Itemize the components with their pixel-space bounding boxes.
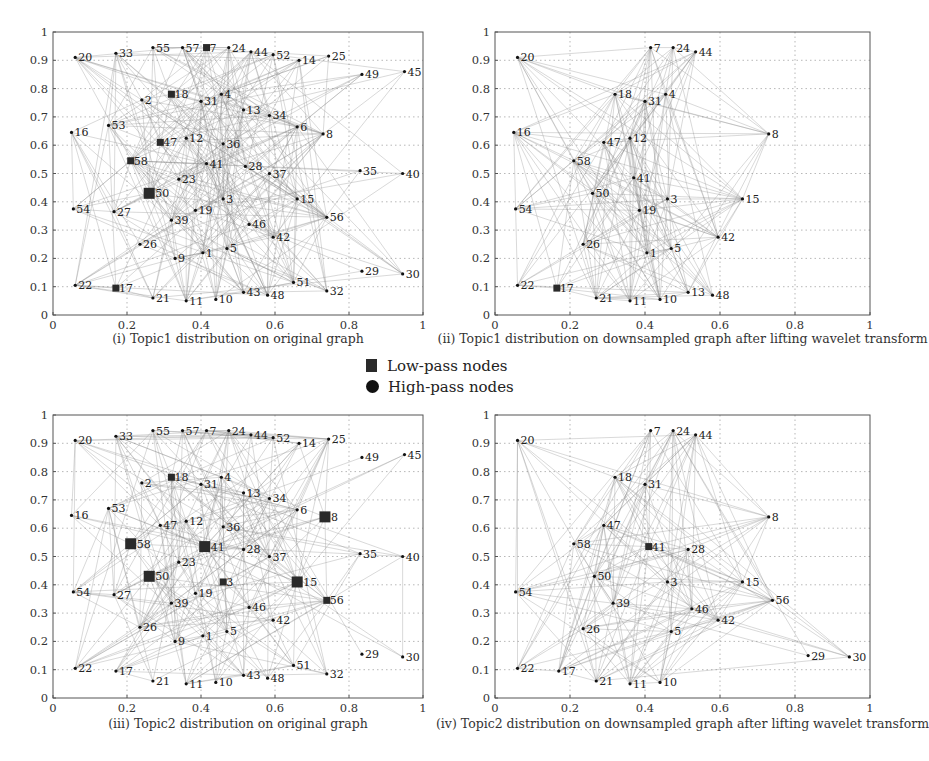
high-pass-node-marker	[242, 674, 245, 677]
high-pass-node-marker	[174, 257, 177, 260]
high-pass-node-marker	[690, 607, 693, 610]
svg-text:0.1: 0.1	[472, 280, 490, 294]
node-label: 17	[119, 665, 133, 678]
high-pass-node-marker	[557, 670, 560, 673]
svg-text:0.6: 0.6	[266, 318, 284, 332]
high-pass-node-marker	[222, 525, 225, 528]
high-pass-node-marker	[741, 197, 744, 200]
node-label: 3	[671, 193, 678, 206]
node-label: 54	[519, 586, 533, 599]
node-label: 18	[618, 88, 632, 101]
high-pass-node-marker	[771, 599, 774, 602]
node-label: 12	[633, 132, 647, 145]
node-label: 47	[607, 519, 621, 532]
node-label: 46	[252, 218, 266, 231]
high-pass-node-marker	[591, 192, 594, 195]
svg-text:0.4: 0.4	[636, 318, 654, 332]
node-label: 32	[330, 285, 344, 298]
svg-text:0.2: 0.2	[30, 251, 48, 265]
node-label: 57	[186, 42, 200, 55]
high-pass-node-marker	[205, 429, 208, 432]
svg-text:0.5: 0.5	[30, 167, 48, 181]
node-label: 9	[178, 252, 185, 265]
high-pass-node-marker	[401, 655, 404, 658]
node-label: 13	[691, 286, 705, 299]
high-pass-node-marker	[268, 114, 271, 117]
high-pass-node-marker	[296, 197, 299, 200]
node-label: 6	[300, 504, 307, 517]
high-pass-node-marker	[74, 439, 77, 442]
high-pass-node-marker	[70, 514, 73, 517]
high-pass-node-marker	[711, 294, 714, 297]
node-label: 15	[746, 576, 760, 589]
high-pass-node-marker	[582, 627, 585, 630]
node-label: 5	[674, 242, 681, 255]
node-label: 51	[297, 276, 311, 289]
node-label: 58	[577, 155, 591, 168]
high-pass-node-marker	[325, 216, 328, 219]
svg-text:0.2: 0.2	[118, 701, 136, 715]
node-label: 48	[271, 289, 285, 302]
node-label: 1	[650, 247, 657, 260]
high-pass-node-marker	[225, 630, 228, 633]
node-label: 53	[112, 119, 126, 132]
svg-text:0.2: 0.2	[118, 318, 136, 332]
svg-text:0: 0	[41, 308, 48, 322]
svg-text:0.4: 0.4	[472, 195, 490, 209]
node-label: 39	[174, 597, 188, 610]
svg-text:0.4: 0.4	[30, 578, 48, 592]
node-label: 14	[302, 437, 316, 450]
high-pass-node-marker	[687, 291, 690, 294]
high-pass-node-marker	[151, 679, 154, 682]
graph-plot: 00.20.40.60.8100.10.20.30.40.50.60.70.80…	[495, 415, 870, 698]
high-pass-node-marker	[360, 270, 363, 273]
panel-topic2-downsampled: 00.20.40.60.8100.10.20.30.40.50.60.70.80…	[495, 415, 870, 698]
svg-text:0.6: 0.6	[30, 521, 48, 535]
svg-text:0: 0	[491, 701, 498, 715]
node-label: 20	[521, 51, 535, 64]
node-label: 34	[272, 109, 286, 122]
high-pass-node-marker	[220, 93, 223, 96]
node-label: 10	[663, 676, 677, 689]
svg-text:1: 1	[866, 701, 873, 715]
node-label: 27	[117, 206, 131, 219]
high-pass-node-marker	[595, 296, 598, 299]
high-pass-node-marker	[242, 291, 245, 294]
node-label: 15	[746, 193, 760, 206]
high-pass-node-marker	[244, 165, 247, 168]
panel-topic1-downsampled: 00.20.40.60.8100.10.20.30.40.50.60.70.80…	[495, 32, 870, 315]
high-pass-node-marker	[403, 70, 406, 73]
svg-text:0.9: 0.9	[30, 436, 48, 450]
node-label: 15	[303, 576, 317, 589]
svg-text:0.1: 0.1	[30, 280, 48, 294]
node-label: 10	[219, 676, 233, 689]
panel-topic2-original: 00.20.40.60.8100.10.20.30.40.50.60.70.80…	[53, 415, 423, 698]
node-label: 19	[198, 204, 212, 217]
node-label: 26	[586, 238, 600, 251]
svg-text:0.4: 0.4	[192, 318, 210, 332]
node-label: 36	[226, 521, 240, 534]
node-label: 43	[247, 286, 261, 299]
high-pass-node-marker	[151, 46, 154, 49]
node-label: 5	[230, 625, 237, 638]
high-pass-node-marker	[174, 640, 177, 643]
node-label: 20	[78, 434, 92, 447]
node-label: 39	[174, 214, 188, 227]
svg-text:0.3: 0.3	[472, 606, 490, 620]
high-pass-node-marker	[643, 100, 646, 103]
high-pass-node-marker	[74, 56, 77, 59]
high-pass-node-marker	[185, 520, 188, 523]
high-pass-node-marker	[658, 298, 661, 301]
caption-topic2-original: (iii) Topic2 distribution on original gr…	[108, 716, 368, 731]
node-label: 47	[607, 136, 621, 149]
high-pass-node-marker	[220, 476, 223, 479]
high-pass-node-marker	[401, 272, 404, 275]
high-pass-node-marker	[242, 548, 245, 551]
high-pass-node-marker	[717, 619, 720, 622]
svg-text:0.3: 0.3	[472, 223, 490, 237]
legend: Low-pass nodes High-pass nodes	[366, 355, 514, 397]
node-label: 31	[204, 478, 218, 491]
node-label: 42	[276, 231, 290, 244]
node-label: 36	[226, 138, 240, 151]
panel-topic1-original: 00.20.40.60.8100.10.20.30.40.50.60.70.80…	[53, 32, 423, 315]
